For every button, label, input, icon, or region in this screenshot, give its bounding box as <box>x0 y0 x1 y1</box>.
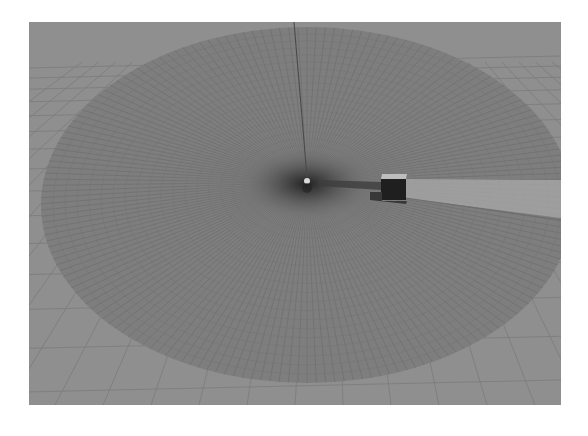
box-front <box>381 179 406 200</box>
scene-canvas[interactable] <box>29 22 561 405</box>
3d-viewport[interactable] <box>29 22 561 405</box>
lidar-sensor-base <box>302 183 312 193</box>
box-top <box>381 174 407 179</box>
